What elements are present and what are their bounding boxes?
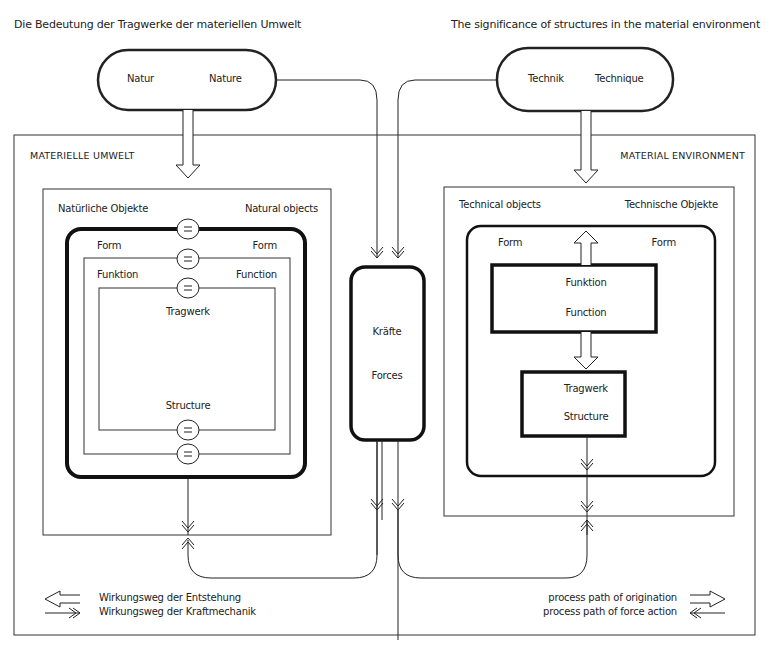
technical-objects-de: Technische Objekte	[625, 199, 718, 210]
nature-to-forces-line	[276, 80, 377, 258]
legend-origination-en: process path of origination	[548, 592, 677, 603]
natural-structure-de: Tragwerk	[166, 306, 210, 317]
nature-label-en: Nature	[209, 73, 242, 84]
origination-arrow-technique	[574, 111, 598, 183]
natural-function-en: Function	[236, 269, 277, 280]
technical-function-box	[492, 265, 656, 332]
technical-function-en: Function	[566, 307, 607, 318]
diagram-canvas	[0, 0, 770, 648]
legend-arrows-right	[690, 591, 725, 618]
technical-function-de: Funktion	[565, 277, 606, 288]
natural-objects-box	[43, 189, 331, 535]
technique-label-de: Technik	[528, 73, 564, 84]
right-force-loop	[398, 510, 587, 578]
forces-label-de: Kräfte	[372, 326, 401, 337]
technical-structure-de: Tragwerk	[564, 383, 608, 394]
technique-to-forces-line	[398, 80, 497, 258]
nature-label-de: Natur	[127, 73, 154, 84]
left-force-loop	[188, 353, 377, 578]
function-to-structure-arrow	[574, 332, 598, 369]
equals-circles	[177, 219, 199, 464]
technical-structure-en: Structure	[564, 411, 609, 422]
forces-box	[351, 267, 424, 440]
legend-arrows-left	[45, 591, 80, 618]
natural-structure-en: Structure	[166, 400, 211, 411]
technical-form-left: Form	[498, 237, 522, 248]
function-to-form-arrow	[574, 231, 598, 265]
natural-form-de: Form	[97, 240, 121, 251]
natural-function-de: Funktion	[97, 269, 138, 280]
natural-form-en: Form	[253, 240, 277, 251]
technique-pill	[497, 48, 673, 111]
technique-label-en: Technique	[595, 73, 644, 84]
origination-arrow-nature	[176, 110, 200, 178]
right-env-label: MATERIAL ENVIRONMENT	[620, 150, 745, 161]
nature-pill	[98, 50, 276, 110]
natural-objects-de: Natürliche Objekte	[58, 203, 148, 214]
left-env-label: MATERIELLE UMWELT	[30, 150, 135, 161]
legend-force-action-en: process path of force action	[543, 606, 677, 617]
title-english: The significance of structures in the ma…	[451, 18, 760, 31]
technical-structure-box	[522, 372, 625, 436]
forces-label-en: Forces	[371, 370, 402, 381]
technical-objects-en: Technical objects	[459, 199, 541, 210]
natural-objects-en: Natural objects	[245, 203, 318, 214]
technical-form-right: Form	[652, 237, 676, 248]
legend-origination-de: Wirkungsweg der Entstehung	[99, 592, 241, 603]
title-german: Die Bedeutung der Tragwerke der materiel…	[14, 18, 301, 31]
legend-force-action-de: Wirkungsweg der Kraftmechanik	[99, 606, 256, 617]
